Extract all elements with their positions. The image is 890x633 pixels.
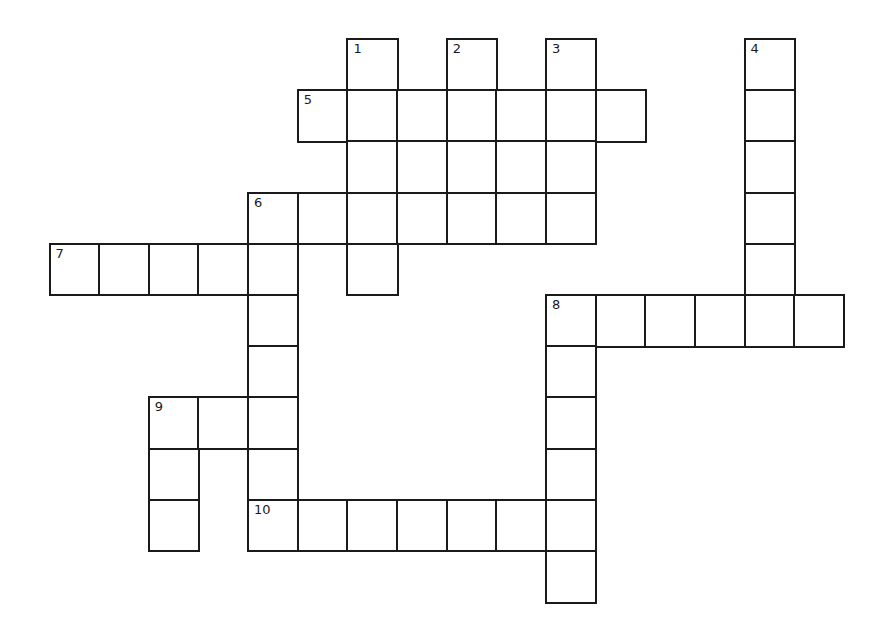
crossword-cell[interactable] <box>247 448 299 502</box>
crossword-cell[interactable] <box>545 345 597 399</box>
letter-input[interactable] <box>547 450 595 500</box>
letter-input[interactable] <box>348 501 396 551</box>
crossword-cell[interactable]: 5 <box>297 89 349 143</box>
letter-input[interactable] <box>597 91 645 141</box>
crossword-cell[interactable] <box>545 140 597 194</box>
letter-input[interactable] <box>249 398 297 448</box>
letter-input[interactable] <box>497 501 545 551</box>
crossword-cell[interactable] <box>247 294 299 348</box>
crossword-cell[interactable] <box>148 448 200 502</box>
letter-input[interactable] <box>249 347 297 397</box>
crossword-cell[interactable]: 10 <box>247 499 299 553</box>
letter-input[interactable] <box>299 501 347 551</box>
letter-input[interactable] <box>348 245 396 295</box>
crossword-cell[interactable] <box>595 294 647 348</box>
crossword-cell[interactable] <box>595 89 647 143</box>
crossword-cell[interactable] <box>495 140 547 194</box>
crossword-cell[interactable] <box>197 243 249 297</box>
letter-input[interactable] <box>795 296 843 346</box>
letter-input[interactable] <box>199 398 247 448</box>
crossword-cell[interactable] <box>545 89 597 143</box>
letter-input[interactable] <box>646 296 694 346</box>
letter-input[interactable] <box>547 501 595 551</box>
letter-input[interactable] <box>150 450 198 500</box>
letter-input[interactable] <box>547 398 595 448</box>
crossword-cell[interactable] <box>744 192 796 246</box>
crossword-cell[interactable]: 6 <box>247 192 299 246</box>
crossword-cell[interactable]: 9 <box>148 396 200 450</box>
letter-input[interactable] <box>249 501 297 551</box>
crossword-cell[interactable] <box>396 192 448 246</box>
letter-input[interactable] <box>547 296 595 346</box>
letter-input[interactable] <box>597 296 645 346</box>
letter-input[interactable] <box>448 91 496 141</box>
crossword-cell[interactable] <box>396 89 448 143</box>
crossword-cell[interactable] <box>98 243 150 297</box>
letter-input[interactable] <box>100 245 148 295</box>
crossword-cell[interactable] <box>446 499 498 553</box>
crossword-cell[interactable] <box>346 499 398 553</box>
letter-input[interactable] <box>398 501 446 551</box>
crossword-cell[interactable] <box>545 396 597 450</box>
letter-input[interactable] <box>150 245 198 295</box>
crossword-cell[interactable] <box>744 294 796 348</box>
crossword-cell[interactable] <box>346 89 398 143</box>
letter-input[interactable] <box>348 91 396 141</box>
crossword-cell[interactable] <box>148 499 200 553</box>
letter-input[interactable] <box>448 142 496 192</box>
letter-input[interactable] <box>199 245 247 295</box>
crossword-cell[interactable] <box>446 192 498 246</box>
crossword-cell[interactable] <box>545 550 597 604</box>
letter-input[interactable] <box>746 296 794 346</box>
letter-input[interactable] <box>299 194 347 244</box>
crossword-cell[interactable] <box>495 192 547 246</box>
crossword-cell[interactable] <box>744 243 796 297</box>
letter-input[interactable] <box>746 142 794 192</box>
letter-input[interactable] <box>348 40 396 90</box>
letter-input[interactable] <box>547 142 595 192</box>
crossword-cell[interactable] <box>396 140 448 194</box>
crossword-cell[interactable] <box>694 294 746 348</box>
crossword-cell[interactable] <box>247 396 299 450</box>
crossword-cell[interactable]: 8 <box>545 294 597 348</box>
crossword-cell[interactable]: 7 <box>49 243 101 297</box>
crossword-cell[interactable] <box>644 294 696 348</box>
crossword-cell[interactable] <box>396 499 448 553</box>
letter-input[interactable] <box>746 194 794 244</box>
letter-input[interactable] <box>547 347 595 397</box>
crossword-cell[interactable] <box>346 140 398 194</box>
letter-input[interactable] <box>746 40 794 90</box>
letter-input[interactable] <box>547 552 595 602</box>
letter-input[interactable] <box>51 245 99 295</box>
crossword-cell[interactable] <box>545 499 597 553</box>
crossword-cell[interactable] <box>197 396 249 450</box>
crossword-cell[interactable] <box>346 243 398 297</box>
crossword-cell[interactable] <box>744 140 796 194</box>
letter-input[interactable] <box>150 398 198 448</box>
letter-input[interactable] <box>398 142 446 192</box>
crossword-cell[interactable] <box>446 140 498 194</box>
crossword-cell[interactable]: 3 <box>545 38 597 92</box>
letter-input[interactable] <box>249 296 297 346</box>
letter-input[interactable] <box>448 40 496 90</box>
letter-input[interactable] <box>249 194 297 244</box>
letter-input[interactable] <box>299 91 347 141</box>
crossword-cell[interactable] <box>446 89 498 143</box>
letter-input[interactable] <box>398 91 446 141</box>
letter-input[interactable] <box>348 142 396 192</box>
letter-input[interactable] <box>249 245 297 295</box>
letter-input[interactable] <box>547 194 595 244</box>
crossword-cell[interactable] <box>247 243 299 297</box>
crossword-cell[interactable] <box>545 448 597 502</box>
letter-input[interactable] <box>150 501 198 551</box>
letter-input[interactable] <box>448 501 496 551</box>
crossword-cell[interactable] <box>247 345 299 399</box>
crossword-cell[interactable] <box>297 192 349 246</box>
crossword-cell[interactable] <box>495 499 547 553</box>
letter-input[interactable] <box>746 245 794 295</box>
crossword-cell[interactable]: 1 <box>346 38 398 92</box>
crossword-cell[interactable] <box>545 192 597 246</box>
crossword-cell[interactable] <box>744 89 796 143</box>
letter-input[interactable] <box>448 194 496 244</box>
crossword-cell[interactable] <box>297 499 349 553</box>
